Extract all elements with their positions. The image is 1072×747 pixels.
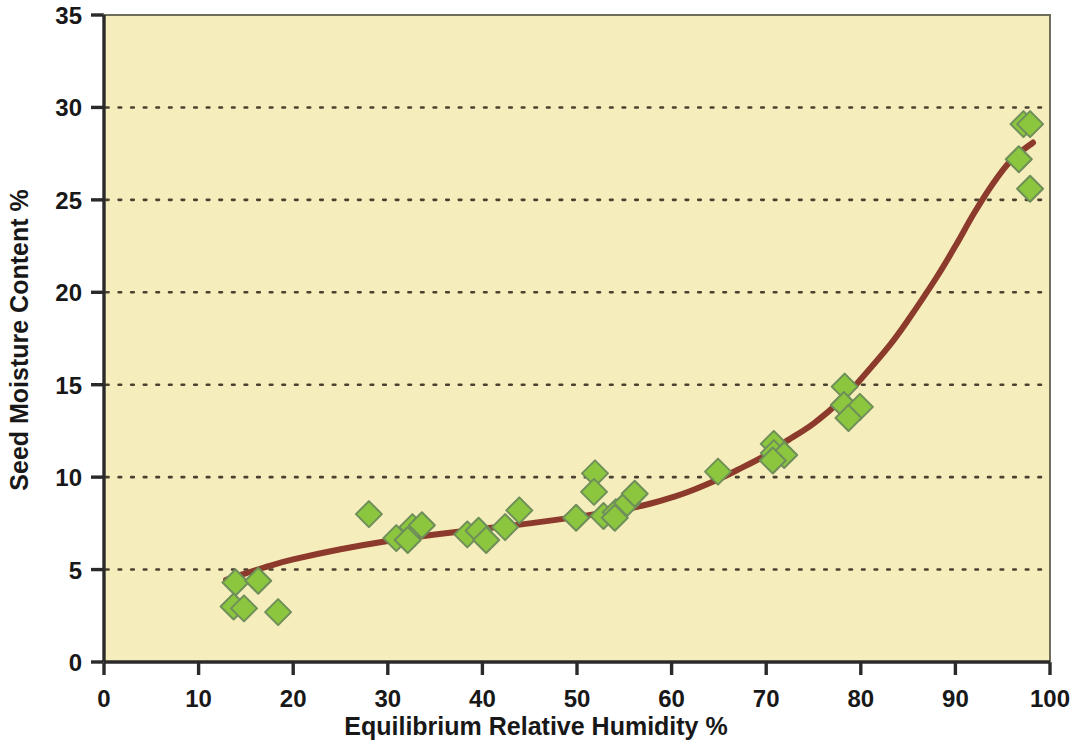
y-tick-label: 20 [55, 279, 82, 306]
y-tick-label: 0 [69, 649, 82, 676]
x-tick-label: 60 [658, 685, 685, 712]
x-tick-label: 20 [280, 685, 307, 712]
chart-figure: 05101520253035 0102030405060708090100 Eq… [0, 0, 1072, 747]
x-tick-label: 70 [753, 685, 780, 712]
y-tick-label: 15 [55, 372, 82, 399]
y-tick-label: 25 [55, 187, 82, 214]
y-axis-title: Seed Moisture Content % [5, 189, 33, 490]
y-tick-label: 5 [69, 557, 82, 584]
x-tick-label: 90 [942, 685, 969, 712]
y-tick-label: 35 [55, 2, 82, 29]
y-tick-label: 30 [55, 94, 82, 121]
x-tick-label: 80 [847, 685, 874, 712]
x-tick-label: 30 [374, 685, 401, 712]
x-tick-label: 50 [564, 685, 591, 712]
x-tick-label: 100 [1030, 685, 1070, 712]
x-tick-label: 10 [185, 685, 212, 712]
scatter-chart: 05101520253035 0102030405060708090100 Eq… [0, 0, 1072, 747]
x-tick-label: 0 [97, 685, 110, 712]
x-tick-label: 40 [469, 685, 496, 712]
y-tick-label: 10 [55, 464, 82, 491]
plot-area-background [104, 15, 1050, 662]
x-axis-title: Equilibrium Relative Humidity % [344, 712, 727, 740]
